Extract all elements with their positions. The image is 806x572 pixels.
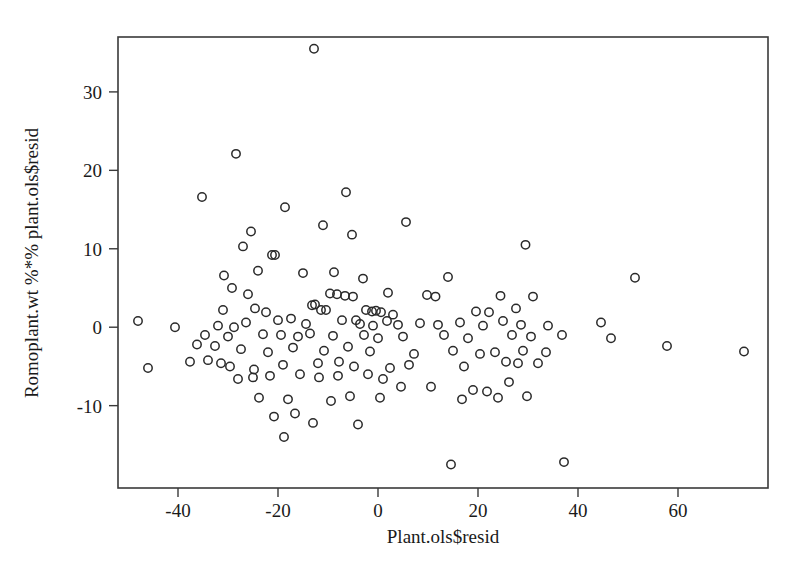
- x-axis-title: Plant.ols$resid: [387, 526, 500, 547]
- y-tick-label: 20: [83, 160, 102, 181]
- x-tick-label: 0: [373, 500, 383, 521]
- y-tick-label: 30: [83, 82, 102, 103]
- x-tick-label: -40: [165, 500, 190, 521]
- scatter-plot-figure: -40-200204060 -100102030 Plant.ols$resid…: [0, 0, 806, 572]
- x-tick-label: 20: [469, 500, 488, 521]
- y-tick-label: 0: [93, 317, 103, 338]
- x-tick-label: -20: [265, 500, 290, 521]
- y-tick-label: -10: [77, 396, 102, 417]
- y-axis-title: Romoplant.wt %*% plant.ols$resid: [21, 127, 42, 398]
- x-tick-label: 60: [669, 500, 688, 521]
- plot-canvas: -40-200204060 -100102030 Plant.ols$resid…: [0, 0, 806, 572]
- y-tick-label: 10: [83, 239, 102, 260]
- figure-background: [0, 0, 806, 572]
- x-tick-label: 40: [569, 500, 588, 521]
